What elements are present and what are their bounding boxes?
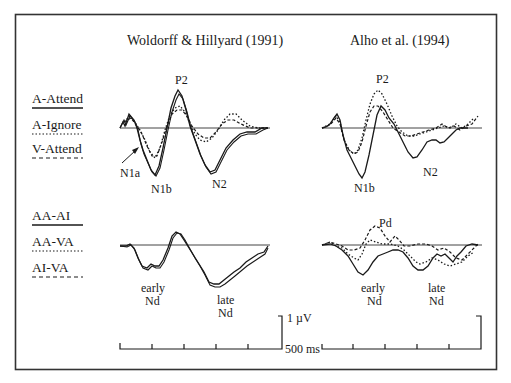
figure-graphics xyxy=(0,0,511,383)
plot-bottom-right xyxy=(322,226,482,275)
scale-amplitude-label: 1 µV xyxy=(287,312,312,324)
plot-bottom-left xyxy=(120,232,270,287)
label-n1a: N1a xyxy=(120,167,140,179)
legend-label-v-attend: V-Attend xyxy=(32,142,82,156)
erp-figure: Woldorff & Hillyard (1991) Alho et al. (… xyxy=(0,0,511,383)
legend-label-aa-ai: AA-AI xyxy=(32,209,70,223)
legend-label-aa-va: AA-VA xyxy=(32,235,74,249)
trace-v-attend xyxy=(124,110,268,156)
trace-a-attend xyxy=(322,106,468,178)
trace-aa-va xyxy=(120,233,268,287)
panel-title-right: Alho et al. (1994) xyxy=(350,34,450,48)
label-early-left: early xyxy=(141,282,165,294)
plot-top-right xyxy=(322,90,482,178)
label-n2-right: N2 xyxy=(423,166,438,178)
legend-label-ai-va: AI-VA xyxy=(32,261,69,275)
trace-ai-va xyxy=(322,226,478,260)
label-early-right: early xyxy=(361,282,385,294)
label-n1b-right: N1b xyxy=(354,182,375,194)
label-p2-left: P2 xyxy=(175,74,188,86)
legend-label-a-attend: A-Attend xyxy=(32,92,83,106)
scale-time-label: 500 ms xyxy=(285,343,320,355)
plot-top-left xyxy=(120,90,270,176)
scale-bar-right xyxy=(322,316,481,349)
label-early-nd-left: Nd xyxy=(145,295,160,307)
trace-aa-ai xyxy=(120,232,268,284)
label-late-right: late xyxy=(428,282,445,294)
panel-title-left: Woldorff & Hillyard (1991) xyxy=(127,34,283,48)
label-early-nd-right: Nd xyxy=(367,295,382,307)
legend-label-a-ignore: A-Ignore xyxy=(32,118,81,132)
label-late-left: late xyxy=(217,294,234,306)
label-n2-left: N2 xyxy=(212,178,227,190)
label-late-nd-right: Nd xyxy=(429,295,444,307)
trace-a-attend-2 xyxy=(120,94,268,176)
trace-a-ignore xyxy=(322,90,474,154)
trace-v-attend xyxy=(322,106,478,154)
label-late-nd-left: Nd xyxy=(218,307,233,319)
scale-bar-left xyxy=(120,316,282,349)
figure-frame xyxy=(16,15,497,370)
label-p2-right: P2 xyxy=(376,73,389,85)
label-pd: Pd xyxy=(379,217,392,229)
label-n1b-left: N1b xyxy=(151,183,172,195)
